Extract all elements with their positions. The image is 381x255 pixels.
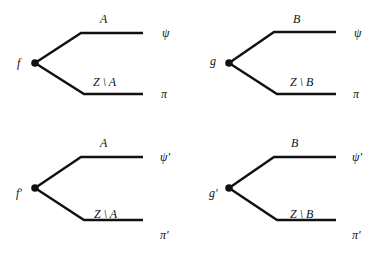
tree-f: f A Z \ A ψ π <box>17 12 170 101</box>
edge-g-prime-lower <box>229 188 336 220</box>
tree-g: g B Z \ B ψ π <box>210 12 362 101</box>
lower-leaf-f-prime: π' <box>160 228 169 242</box>
root-label-g-prime: g' <box>209 186 218 200</box>
diagram-canvas: f A Z \ A ψ π g B Z \ B ψ π f' A Z \ A ψ… <box>0 0 381 255</box>
node-f-prime <box>31 184 39 192</box>
root-label-f-prime: f' <box>16 186 22 200</box>
lower-edge-label-f: Z \ A <box>93 75 117 89</box>
lower-leaf-g: π <box>353 87 360 101</box>
node-g-prime <box>225 184 233 192</box>
edge-g-upper <box>229 32 336 63</box>
lower-leaf-g-prime: π' <box>352 228 361 242</box>
upper-leaf-f: ψ <box>162 26 170 40</box>
upper-leaf-f-prime: ψ' <box>160 150 170 164</box>
upper-leaf-g: ψ <box>354 26 362 40</box>
upper-edge-label-f-prime: A <box>99 136 108 150</box>
node-f <box>31 59 39 67</box>
upper-edge-label-g: B <box>293 12 301 26</box>
edge-g-lower <box>229 63 336 94</box>
lower-edge-label-g: Z \ B <box>290 75 314 89</box>
root-label-f: f <box>17 56 22 70</box>
lower-edge-label-g-prime: Z \ B <box>290 207 314 221</box>
lower-leaf-f: π <box>161 87 168 101</box>
upper-edge-label-g-prime: B <box>291 136 299 150</box>
edge-f-prime-lower <box>35 188 143 220</box>
root-label-g: g <box>210 54 216 68</box>
edge-f-upper <box>35 33 143 63</box>
edge-f-prime-upper <box>35 157 143 188</box>
node-g <box>225 59 233 67</box>
lower-edge-label-f-prime: Z \ A <box>94 207 118 221</box>
upper-edge-label-f: A <box>99 12 108 26</box>
tree-g-prime: g' B Z \ B ψ' π' <box>209 136 362 242</box>
upper-leaf-g-prime: ψ' <box>352 150 362 164</box>
edge-f-lower <box>35 63 143 94</box>
edge-g-prime-upper <box>229 157 336 188</box>
tree-f-prime: f' A Z \ A ψ' π' <box>16 136 170 242</box>
